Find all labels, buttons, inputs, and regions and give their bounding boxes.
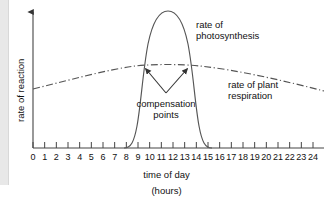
annotation-respiration-line1: rate of plant: [228, 80, 278, 91]
x-axis-ticks: [33, 142, 313, 148]
series-respiration-curve: [33, 65, 324, 92]
x-axis-label: time of day: [0, 170, 333, 181]
annotation-respiration-line2: respiration: [228, 91, 272, 102]
annotation-compensation-line2: points: [125, 110, 207, 121]
x-axis-unit-label: (hours): [0, 186, 333, 197]
y-axis-label: rate of reaction: [16, 59, 27, 122]
chart-figure: rate of reaction 0 1 2 3 4 5 6 7 8 9 10 …: [0, 0, 333, 211]
annotation-compensation-line1: compensation: [125, 99, 207, 110]
compensation-arrow-left: [146, 69, 167, 94]
annotation-photosynthesis-line1: rate of: [196, 20, 223, 31]
compensation-arrow-right: [166, 69, 188, 94]
annotation-photosynthesis-line2: photosynthesis: [196, 31, 259, 42]
x-tick-label-24: 24: [306, 152, 320, 163]
